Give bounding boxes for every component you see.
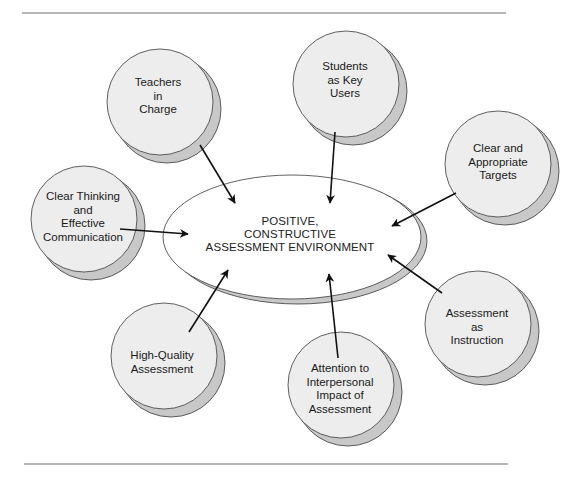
node-label-students: Students as Key Users <box>322 60 367 101</box>
node-line: Users <box>322 87 367 101</box>
node-line: in <box>135 89 182 103</box>
diagram-canvas: POSITIVE, CONSTRUCTIVE ASSESSMENT ENVIRO… <box>0 0 587 478</box>
node-line: Teachers <box>135 76 182 90</box>
node-line: as <box>446 320 509 334</box>
node-line: Instruction <box>446 334 509 348</box>
node-label-interpersonal: Attention to Interpersonal Impact of Ass… <box>306 362 373 416</box>
node-line: Communication <box>43 231 123 245</box>
node-line: Clear and <box>468 142 527 156</box>
center-label: POSITIVE, CONSTRUCTIVE ASSESSMENT ENVIRO… <box>206 215 375 254</box>
node-line: High-Quality <box>130 349 193 363</box>
node-label-communication: Clear Thinking and Effective Communicati… <box>43 190 123 244</box>
node-line: Assessment <box>306 403 373 417</box>
node-line: Appropriate <box>468 155 527 169</box>
node-line: Assessment <box>130 362 193 376</box>
node-line: Interpersonal <box>306 376 373 390</box>
node-line: Assessment <box>446 307 509 321</box>
node-line: Effective <box>43 217 123 231</box>
node-label-quality: High-Quality Assessment <box>130 349 193 376</box>
node-line: Charge <box>135 103 182 117</box>
center-line: POSITIVE, <box>206 215 375 228</box>
node-label-teachers: Teachers in Charge <box>135 76 182 117</box>
node-line: and <box>43 204 123 218</box>
node-line: Students <box>322 60 367 74</box>
node-line: Impact of <box>306 389 373 403</box>
node-label-targets: Clear and Appropriate Targets <box>468 142 527 183</box>
center-line: ASSESSMENT ENVIRONMENT <box>206 241 375 254</box>
node-label-instruction: Assessment as Instruction <box>446 307 509 348</box>
node-line: Clear Thinking <box>43 190 123 204</box>
node-line: Attention to <box>306 362 373 376</box>
node-line: Targets <box>468 169 527 183</box>
center-line: CONSTRUCTIVE <box>206 228 375 241</box>
node-line: as Key <box>322 73 367 87</box>
